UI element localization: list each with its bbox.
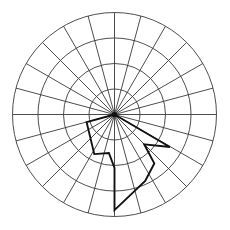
center-origin-dot xyxy=(112,112,117,117)
polar-chart-svg xyxy=(0,0,230,230)
polar-chart-root xyxy=(0,0,230,230)
